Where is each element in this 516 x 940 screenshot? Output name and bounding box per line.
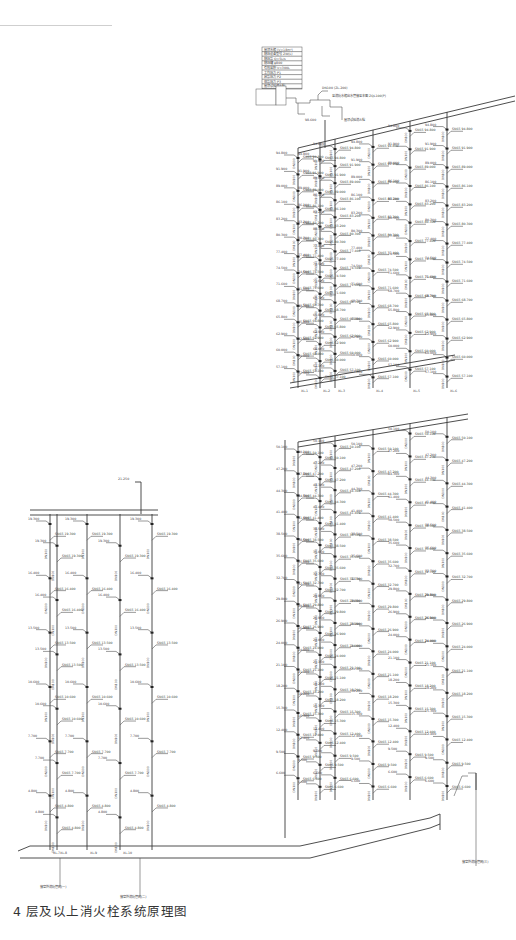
floor-elevation: 35.600 bbox=[425, 546, 436, 550]
pipe-size: DN100 bbox=[292, 499, 296, 509]
pipe-size: DN100 bbox=[404, 243, 408, 253]
floor-elevation: 74.500 bbox=[313, 262, 324, 266]
floor-elevation: 44.300 bbox=[351, 487, 362, 491]
pipe-size: DN100 bbox=[404, 224, 408, 234]
hydrant-label: SN65 86.100 bbox=[452, 184, 473, 188]
floor-elevation: 38.500 bbox=[298, 538, 309, 542]
floor-elevation: 35.600 bbox=[276, 554, 287, 558]
floor-elevation: 77.400 bbox=[425, 237, 436, 241]
pipe-size: DN100 bbox=[441, 208, 445, 218]
pipe-size: DN100 bbox=[367, 768, 371, 778]
floor-elevation: 6.600 bbox=[298, 780, 307, 784]
legend-row: 稳压罐 φ800 bbox=[264, 60, 282, 65]
floor-elevation: 15.300 bbox=[425, 709, 436, 713]
pipe-size: DN100 bbox=[441, 511, 445, 521]
pipe-size: DN100 bbox=[114, 679, 118, 689]
floor-elevation: 57.100 bbox=[298, 371, 309, 375]
pipe-size: DN100 bbox=[441, 341, 445, 351]
pipe-size: DN100 bbox=[292, 673, 296, 683]
hydrant-valve-icon bbox=[446, 575, 449, 577]
pipe-size: DN100 bbox=[292, 478, 296, 488]
pipe-size: DN100 bbox=[51, 734, 55, 744]
hydrant-label: SN65 71.600 bbox=[452, 279, 473, 283]
floor-elevation: 94.800 bbox=[276, 151, 287, 155]
pipe-size: DN100 bbox=[329, 516, 333, 526]
hydrant-valve-icon bbox=[319, 676, 322, 678]
hydrant-valve-icon bbox=[86, 632, 89, 634]
hydrant-valve-icon bbox=[409, 501, 412, 503]
pipe-size: DN100 bbox=[146, 658, 150, 668]
hydrant-valve-icon bbox=[372, 763, 375, 765]
hydrant-valve-icon bbox=[334, 556, 337, 558]
floor-elevation: 47.200 bbox=[388, 449, 399, 453]
floor-elevation: 57.100 bbox=[425, 370, 436, 374]
hydrant-valve-icon bbox=[334, 250, 337, 252]
floor-elevation: 44.300 bbox=[313, 483, 324, 487]
pipe-size: DN100 bbox=[329, 184, 333, 194]
hydrant-valve-icon bbox=[319, 326, 322, 328]
floor-elevation: 44.300 bbox=[298, 494, 309, 498]
pipe-size: DN100 bbox=[367, 678, 371, 688]
hydrant-label: SN65 18.200 bbox=[452, 692, 473, 696]
hydrant-label: SN65 18.200 bbox=[378, 695, 399, 699]
hydrant-valve-icon bbox=[446, 436, 449, 438]
pipe-size: DN100 bbox=[329, 605, 333, 615]
pipe-size: DN100 bbox=[441, 379, 445, 389]
hydrant-valve-icon bbox=[319, 720, 322, 722]
floor-elevation: 80.300 bbox=[313, 227, 324, 231]
floor-elevation: 89.000 bbox=[425, 161, 436, 165]
floor-elevation: 38.500 bbox=[388, 518, 399, 522]
hydrant-label: SN65 41.400 bbox=[452, 506, 473, 510]
hydrant-label: SN65 80.300 bbox=[452, 222, 473, 226]
hydrant-valve-icon bbox=[56, 762, 59, 764]
floor-elevation: 10.600 bbox=[28, 680, 39, 684]
pipe-size: DN100 bbox=[329, 218, 333, 228]
hydrant-valve-icon bbox=[409, 455, 412, 457]
pipe-size: DN100 bbox=[404, 461, 408, 471]
inlet-note-3: 接室外消防管网(三) bbox=[462, 859, 489, 864]
hydrant-label: SN65 24.000 bbox=[378, 650, 399, 654]
floor-elevation: 62.900 bbox=[425, 332, 436, 336]
pipe-size: DN100 bbox=[292, 339, 296, 349]
floor-elevation: 9.500 bbox=[298, 758, 307, 762]
pipe-size: DN100 bbox=[367, 343, 371, 353]
floor-elevation: 15.300 bbox=[298, 714, 309, 718]
floor-elevation: 9.500 bbox=[351, 757, 360, 761]
roof-tank bbox=[256, 89, 276, 105]
hydrant-valve-icon bbox=[446, 459, 449, 461]
pipe-size: DN100 bbox=[367, 520, 371, 530]
pipe-size: DN100 bbox=[441, 488, 445, 498]
hydrant-valve-icon bbox=[151, 686, 154, 688]
hydrant-valve-icon bbox=[334, 148, 337, 150]
pipe-size: DN100 bbox=[404, 188, 408, 198]
pipe-size: DN100 bbox=[404, 507, 408, 517]
hydrant-valve-icon bbox=[372, 740, 375, 742]
hydrant-valve-icon bbox=[446, 762, 449, 764]
hydrant-valve-icon bbox=[409, 524, 412, 526]
floor-elevation: 10.600 bbox=[98, 702, 109, 706]
pipe-size: DN100 bbox=[441, 189, 445, 199]
hydrant-label: SN65 12.400 bbox=[378, 740, 399, 744]
floor-elevation: 24.000 bbox=[388, 633, 399, 637]
hydrant-label: SN65 7.700 bbox=[92, 750, 111, 754]
floor-elevation: 15.300 bbox=[351, 712, 362, 716]
floor-elevation: 6.600 bbox=[351, 779, 360, 783]
pipe-size: DN100 bbox=[329, 338, 333, 348]
pipe-size: DN100 bbox=[367, 723, 371, 733]
floor-elevation: 62.900 bbox=[388, 326, 399, 330]
floor-elevation: 80.300 bbox=[425, 218, 436, 222]
hydrant-valve-icon bbox=[151, 523, 154, 525]
pipe-size: DN100 bbox=[367, 588, 371, 598]
low-zone-risers: 50.100SN65 50.100DN10047.200SN65 47.200D… bbox=[276, 414, 473, 801]
hydrant-valve-icon bbox=[409, 478, 412, 480]
hydrant-label: SN65 19.300 bbox=[55, 532, 76, 536]
floor-elevation: 16.400 bbox=[65, 571, 76, 575]
pipe-size: DN100 bbox=[441, 768, 445, 778]
hydrant-label: SN65 7.700 bbox=[55, 750, 74, 754]
hydrant-valve-icon bbox=[409, 148, 412, 150]
hydrant-label: SN65 16.400 bbox=[125, 608, 146, 612]
pipe-size: DN100 bbox=[404, 621, 408, 631]
pipe-size: DN100 bbox=[292, 760, 296, 770]
hydrant-valve-icon bbox=[319, 698, 322, 700]
pipe-size: DN100 bbox=[441, 227, 445, 237]
